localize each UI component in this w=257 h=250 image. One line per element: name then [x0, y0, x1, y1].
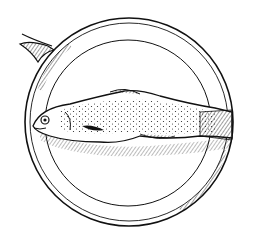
illustration: Fish on a round pan	[0, 0, 257, 250]
fish-on-pan-drawing	[0, 0, 257, 250]
